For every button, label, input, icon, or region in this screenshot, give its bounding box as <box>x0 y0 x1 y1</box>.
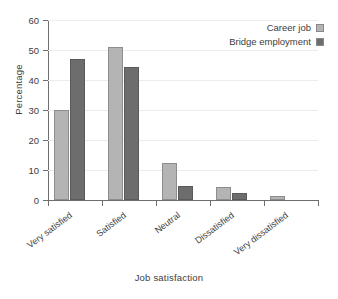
y-tick-mark <box>43 20 48 21</box>
bar <box>124 67 139 201</box>
x-tick-mark <box>48 201 49 206</box>
x-tick-mark <box>264 201 265 206</box>
bar <box>108 47 123 200</box>
bar <box>70 59 85 200</box>
x-tick-label: Dissatisfied <box>70 210 236 299</box>
y-tick-label: 40 <box>8 75 39 86</box>
gridline <box>48 80 318 81</box>
y-tick-label: 0 <box>8 195 39 206</box>
y-tick-label: 50 <box>8 45 39 56</box>
gridline <box>48 170 318 171</box>
y-tick-label: 10 <box>8 165 39 176</box>
gridline <box>48 50 318 51</box>
y-tick-label: 60 <box>8 15 39 26</box>
legend-label-bridge-employment: Bridge employment <box>229 36 311 47</box>
x-tick-mark <box>210 201 211 206</box>
bar <box>232 193 247 201</box>
x-tick-label: Neutral <box>16 210 182 299</box>
gridline <box>48 110 318 111</box>
y-tick-mark <box>43 140 48 141</box>
x-tick-mark <box>318 201 319 206</box>
legend-item-career-job: Career job <box>267 22 324 33</box>
y-tick-label: 30 <box>8 105 39 116</box>
bar-chart: Percentage 0102030405060Very satisfiedSa… <box>0 0 338 299</box>
x-tick-label: Very dissatisfied <box>124 210 290 299</box>
y-tick-mark <box>43 170 48 171</box>
legend-swatch-career-job <box>316 24 324 32</box>
y-tick-mark <box>43 110 48 111</box>
bar <box>216 187 231 200</box>
legend-label-career-job: Career job <box>267 22 311 33</box>
x-tick-mark <box>102 201 103 206</box>
y-tick-label: 20 <box>8 135 39 146</box>
gridline <box>48 140 318 141</box>
bar <box>270 196 285 201</box>
y-tick-mark <box>43 50 48 51</box>
y-tick-mark <box>43 80 48 81</box>
legend-swatch-bridge-employment <box>316 38 324 46</box>
x-axis-title: Job satisfaction <box>0 272 338 283</box>
x-axis-line <box>48 200 319 201</box>
bar <box>54 110 69 200</box>
x-tick-mark <box>156 201 157 206</box>
legend-item-bridge-employment: Bridge employment <box>229 36 324 47</box>
plot-area <box>48 20 318 200</box>
gridline <box>48 20 318 21</box>
bar <box>162 163 177 200</box>
chart-legend: Career job Bridge employment <box>229 22 324 47</box>
bar <box>178 186 193 200</box>
